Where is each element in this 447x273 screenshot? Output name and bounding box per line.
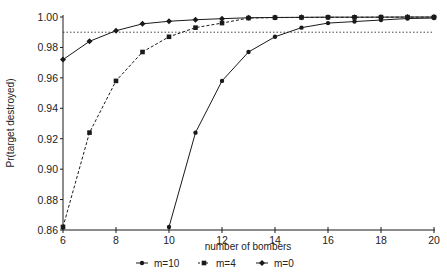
dot-marker bbox=[193, 130, 197, 134]
series-m-4 bbox=[61, 15, 437, 229]
x-tick-label: 20 bbox=[428, 234, 440, 246]
x-tick-label: 6 bbox=[60, 234, 66, 246]
plot-series-group bbox=[60, 14, 437, 229]
line-chart: 0.860.880.900.920.940.960.981.0068101214… bbox=[0, 0, 447, 273]
y-tick-label: 0.96 bbox=[38, 72, 59, 84]
diamond-marker bbox=[166, 18, 172, 24]
x-tick-label: 10 bbox=[163, 234, 175, 246]
dot-marker bbox=[246, 50, 250, 54]
legend-item-m-4: m=4 bbox=[198, 258, 236, 269]
diamond-marker bbox=[219, 16, 225, 22]
legend-item-m-10: m=10 bbox=[136, 258, 180, 269]
legend-item-m-0: m=0 bbox=[256, 258, 294, 269]
y-tick-label: 0.90 bbox=[38, 163, 59, 175]
square-marker bbox=[193, 25, 198, 30]
dot-marker bbox=[140, 261, 144, 265]
diamond-marker bbox=[193, 17, 199, 23]
x-tick-label: 16 bbox=[322, 234, 334, 246]
diamond-marker bbox=[140, 21, 146, 27]
y-tick-label: 1.00 bbox=[38, 11, 59, 23]
dot-marker bbox=[273, 35, 277, 39]
diamond-marker bbox=[113, 28, 119, 34]
legend-label: m=10 bbox=[154, 258, 180, 269]
dot-marker bbox=[299, 25, 303, 29]
diamond-marker bbox=[87, 38, 93, 44]
y-tick-label: 0.86 bbox=[38, 224, 59, 236]
x-tick-label: 8 bbox=[113, 234, 119, 246]
series-line bbox=[169, 18, 434, 227]
legend: m=10m=4m=0 bbox=[136, 258, 294, 269]
y-tick-label: 0.94 bbox=[38, 102, 59, 114]
y-tick-label: 0.92 bbox=[38, 133, 59, 145]
y-tick-label: 0.98 bbox=[38, 41, 59, 53]
y-axis-title: Pr(target destroyed) bbox=[5, 79, 16, 168]
legend-label: m=4 bbox=[216, 258, 236, 269]
chart-canvas: 0.860.880.900.920.940.960.981.0068101214… bbox=[0, 0, 447, 273]
legend-label: m=0 bbox=[274, 258, 294, 269]
diamond-marker bbox=[259, 260, 265, 266]
square-marker bbox=[87, 130, 92, 135]
dot-marker bbox=[326, 21, 330, 25]
series-line bbox=[63, 17, 434, 227]
dot-marker bbox=[220, 79, 224, 83]
y-tick-label: 0.88 bbox=[38, 194, 59, 206]
square-marker bbox=[202, 261, 207, 266]
square-marker bbox=[167, 34, 172, 39]
x-tick-label: 18 bbox=[375, 234, 387, 246]
x-axis-title: number of bombers bbox=[205, 241, 292, 252]
series-m-10 bbox=[167, 16, 436, 229]
axes-group: 0.860.880.900.920.940.960.981.0068101214… bbox=[38, 11, 440, 246]
square-marker bbox=[140, 50, 145, 55]
square-marker bbox=[114, 79, 119, 84]
